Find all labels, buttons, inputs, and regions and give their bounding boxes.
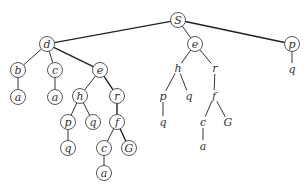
node-label: f	[211, 90, 218, 103]
node-label: e	[192, 38, 199, 51]
tree-node-a4: a	[200, 140, 207, 153]
tree-node-q5: q	[288, 63, 295, 76]
node-label: h	[174, 62, 181, 75]
tree-node-h1: h	[73, 89, 88, 104]
node-label: S	[174, 14, 182, 27]
node-label: G	[125, 142, 134, 155]
tree-node-p2: p	[61, 115, 76, 130]
tree-edge	[104, 76, 113, 89]
tree-node-q3: q	[185, 90, 192, 103]
tree-edge	[217, 101, 225, 116]
node-label: p	[288, 38, 295, 51]
tree-node-S: S	[171, 13, 186, 28]
node-label: r	[212, 62, 218, 75]
node-label: a	[52, 91, 59, 104]
tree-nodes: SdepbceaahrpqfqcGahrpqfqcGaq	[11, 13, 300, 181]
tree-node-G1: G	[122, 141, 137, 156]
tree-edge	[166, 73, 175, 90]
tree-node-d: d	[40, 37, 55, 52]
tree-node-f1: f	[110, 115, 125, 130]
tree-node-c2: c	[97, 141, 112, 156]
tree-edge	[180, 74, 187, 91]
tree-edge	[182, 26, 190, 38]
tree-node-p1: p	[285, 37, 300, 52]
tree-node-q1: q	[86, 115, 101, 130]
tree-node-r1: r	[110, 89, 125, 104]
tree-edge	[71, 103, 77, 115]
node-label: q	[159, 116, 166, 129]
node-label: r	[114, 90, 120, 103]
node-label: c	[52, 64, 58, 77]
tree-edge	[214, 74, 215, 90]
tree-edge	[85, 76, 96, 90]
node-label: a	[15, 91, 22, 104]
node-label: p	[159, 90, 166, 103]
node-label: p	[64, 116, 71, 129]
node-label: e	[97, 64, 104, 77]
tree-node-h2: h	[174, 62, 181, 75]
node-label: d	[43, 38, 50, 51]
tree-node-c3: c	[200, 116, 206, 129]
tree-edge	[205, 102, 211, 117]
node-label: q	[64, 142, 71, 155]
tree-diagram: SdepbceaahrpqfqcGahrpqfqcGaq	[0, 0, 306, 189]
tree-node-a2: a	[48, 90, 63, 105]
tree-node-q4: q	[159, 116, 166, 129]
node-label: h	[76, 90, 83, 103]
tree-node-a3: a	[97, 166, 112, 181]
tree-edge	[49, 51, 53, 63]
node-label: c	[200, 116, 206, 129]
node-label: a	[200, 140, 207, 153]
tree-edge	[24, 49, 42, 65]
tree-node-a1: a	[11, 90, 26, 105]
tree-node-e1: e	[188, 37, 203, 52]
node-label: q	[288, 63, 295, 76]
node-label: G	[224, 116, 233, 129]
tree-edge	[107, 129, 113, 142]
tree-node-f2: f	[211, 90, 218, 103]
tree-node-c1: c	[48, 63, 63, 78]
tree-node-b: b	[11, 63, 26, 78]
node-label: a	[101, 167, 108, 180]
tree-node-r2: r	[212, 62, 218, 75]
tree-edge	[120, 129, 126, 141]
tree-node-q2: q	[61, 141, 76, 156]
node-label: b	[14, 64, 21, 77]
tree-edge	[54, 21, 170, 42]
tree-node-G2: G	[224, 116, 233, 129]
tree-edge	[200, 50, 211, 64]
tree-edge	[83, 103, 89, 116]
tree-node-e2: e	[93, 63, 108, 78]
node-label: q	[89, 116, 96, 129]
node-label: c	[101, 142, 107, 155]
tree-edge	[181, 50, 190, 63]
tree-node-p3: p	[159, 90, 166, 103]
node-label: q	[185, 90, 192, 103]
